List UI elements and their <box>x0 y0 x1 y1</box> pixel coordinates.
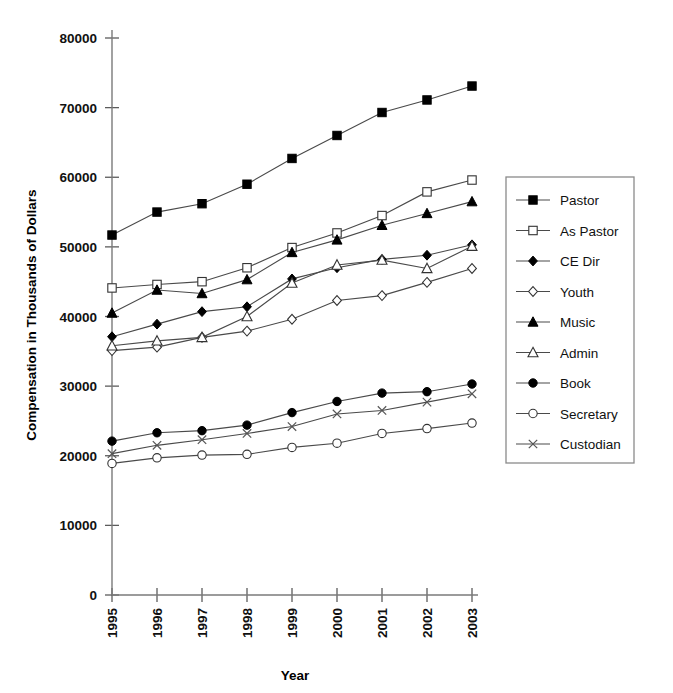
data-point-open-square <box>378 211 386 219</box>
x-tick-label: 2000 <box>330 608 345 638</box>
data-point-open-diamond <box>333 296 342 306</box>
data-point-open-circle <box>108 459 116 467</box>
data-point-open-circle <box>423 424 431 432</box>
data-point-filled-circle <box>423 387 431 395</box>
data-point-open-triangle <box>242 311 252 320</box>
data-point-filled-circle <box>333 397 341 405</box>
series-path <box>112 246 472 346</box>
data-point-open-square <box>529 226 537 234</box>
data-point-open-square <box>108 284 116 292</box>
series-path <box>112 180 472 288</box>
y-tick-label: 50000 <box>59 240 97 255</box>
data-point-open-circle <box>243 450 251 458</box>
chart-legend: PastorAs PastorCE DirYouthMusicAdminBook… <box>506 177 634 463</box>
chart-page: 0100002000030000400005000060000700008000… <box>0 0 673 693</box>
data-point-filled-circle <box>378 389 386 397</box>
data-point-filled-square <box>468 82 476 90</box>
data-point-open-circle <box>288 443 296 451</box>
data-point-open-diamond <box>423 277 432 287</box>
y-tick-label: 0 <box>89 588 97 603</box>
y-tick-label: 70000 <box>59 101 97 116</box>
x-tick-label: 1999 <box>285 608 300 638</box>
x-tick-label: 2002 <box>420 608 435 638</box>
data-point-filled-triangle <box>242 274 252 283</box>
y-axis-title: Compensation in Thousands of Dollars <box>24 189 39 440</box>
y-tick-label: 40000 <box>59 310 97 325</box>
data-point-filled-circle <box>243 421 251 429</box>
data-point-open-circle <box>198 451 206 459</box>
data-point-open-square <box>198 277 206 285</box>
data-point-open-circle <box>153 454 161 462</box>
legend-label: Book <box>560 376 591 391</box>
series-admin <box>107 241 477 350</box>
legend-label: CE Dir <box>560 254 600 269</box>
series-layer <box>107 82 477 468</box>
data-point-filled-square <box>378 108 386 116</box>
data-point-filled-square <box>108 231 116 239</box>
data-point-open-diamond <box>378 291 387 301</box>
data-point-filled-diamond <box>423 250 432 260</box>
x-tick-label: 2001 <box>375 608 390 639</box>
data-point-filled-circle <box>153 429 161 437</box>
data-point-open-circle <box>468 419 476 427</box>
x-tick-label: 1995 <box>105 608 120 639</box>
data-point-filled-circle <box>468 380 476 388</box>
legend-label: Secretary <box>560 407 618 422</box>
data-point-filled-diamond <box>153 319 162 329</box>
x-tick-label: 1996 <box>150 608 165 639</box>
legend-label: Pastor <box>560 193 600 208</box>
series-music <box>107 196 477 317</box>
legend-label: As Pastor <box>560 224 619 239</box>
data-point-open-square <box>468 176 476 184</box>
data-point-open-circle <box>333 439 341 447</box>
data-point-filled-square <box>198 200 206 208</box>
legend-label: Admin <box>560 346 598 361</box>
data-point-open-square <box>243 264 251 272</box>
data-point-open-circle <box>378 429 386 437</box>
data-point-open-diamond <box>243 326 252 336</box>
x-tick-label: 1998 <box>240 608 255 639</box>
x-tick-label: 1997 <box>195 608 210 638</box>
y-tick-label: 80000 <box>59 31 97 46</box>
line-chart: 0100002000030000400005000060000700008000… <box>0 0 673 693</box>
x-axis-title: Year <box>281 668 310 683</box>
data-point-filled-square <box>243 180 251 188</box>
data-point-open-diamond <box>288 314 297 324</box>
y-tick-label: 60000 <box>59 170 97 185</box>
data-point-filled-circle <box>198 426 206 434</box>
data-point-filled-circle <box>288 408 296 416</box>
data-point-filled-square <box>288 154 296 162</box>
data-point-filled-triangle <box>107 308 117 317</box>
y-tick-label: 30000 <box>59 379 97 394</box>
data-point-filled-triangle <box>467 196 477 205</box>
y-tick-label: 20000 <box>59 449 97 464</box>
data-point-filled-circle <box>108 437 116 445</box>
data-point-filled-square <box>529 196 537 204</box>
data-point-filled-circle <box>529 379 537 387</box>
series-book <box>108 380 476 445</box>
legend-label: Youth <box>560 285 594 300</box>
data-point-open-circle <box>529 409 537 417</box>
data-point-open-diamond <box>468 264 477 274</box>
data-point-filled-square <box>333 131 341 139</box>
legend-label: Custodian <box>560 437 621 452</box>
data-point-open-square <box>423 188 431 196</box>
series-path <box>112 202 472 313</box>
data-point-filled-diamond <box>198 307 207 317</box>
y-tick-label: 10000 <box>59 518 97 533</box>
legend-label: Music <box>560 315 596 330</box>
x-tick-label: 2003 <box>465 608 480 639</box>
data-point-filled-square <box>153 208 161 216</box>
data-point-filled-square <box>423 96 431 104</box>
